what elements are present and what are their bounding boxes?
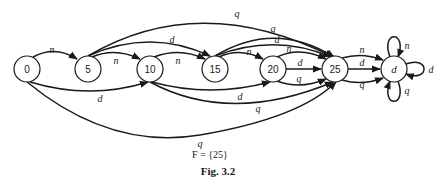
label-0-5: n <box>50 44 55 55</box>
label-20-25-d: d <box>298 57 304 68</box>
state-15: 15 <box>202 56 228 82</box>
edge-10-20-d <box>152 82 270 90</box>
label-15-20: n <box>247 46 252 57</box>
state-10: 10 <box>137 56 163 82</box>
label-10-20: d <box>238 91 244 102</box>
label-5-25: q <box>235 8 240 19</box>
states: 0 5 10 15 20 25 d <box>14 56 407 82</box>
state-0-label: 0 <box>24 64 30 75</box>
state-20: 20 <box>260 56 286 82</box>
label-d-d-d: d <box>429 64 435 75</box>
label-15-25-q: q <box>271 23 276 34</box>
label-d-d-n: n <box>405 40 410 51</box>
label-25-d-q: q <box>360 79 365 90</box>
label-5-15: d <box>170 34 176 45</box>
edge-0-10-d <box>30 82 148 91</box>
label-25-d-n: n <box>360 44 365 55</box>
state-5: 5 <box>75 56 101 82</box>
edge-d-d-n <box>388 37 400 57</box>
state-25-final: 25 <box>322 56 348 82</box>
state-dead: d <box>381 56 407 82</box>
final-states-caption: F = {25} <box>192 149 228 160</box>
edge-d-d-q <box>388 81 400 101</box>
label-10-15: n <box>176 55 181 66</box>
dfa-diagram: n d q n d q n d q n d q n d q n d q n d … <box>0 0 446 181</box>
state-0: 0 <box>14 56 40 82</box>
label-25-d-d: d <box>360 57 366 68</box>
edge-15-20-n <box>219 52 263 59</box>
label-0-25: q <box>198 138 203 149</box>
label-0-10: d <box>98 93 104 104</box>
label-10-25: q <box>256 103 261 114</box>
figure-caption: Fig. 3.2 <box>201 165 236 177</box>
label-5-10: n <box>114 55 119 66</box>
state-10-label: 10 <box>144 64 156 75</box>
state-5-label: 5 <box>85 64 91 75</box>
edge-0-5-n <box>33 51 77 59</box>
label-20-25-q: q <box>297 73 302 84</box>
state-15-label: 15 <box>209 64 221 75</box>
edge-d-d-d <box>406 62 424 76</box>
state-25-label: 25 <box>329 64 341 75</box>
state-dead-label: d <box>391 63 397 75</box>
label-d-d-q: q <box>405 85 410 96</box>
state-20-label: 20 <box>267 64 279 75</box>
label-20-25-n: n <box>287 43 292 54</box>
edge-20-25-q <box>277 79 326 85</box>
